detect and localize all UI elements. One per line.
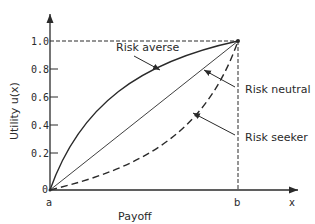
y-tick-label-0.2: 0.2 [31, 148, 49, 159]
x-axis-label: Payoff [118, 210, 152, 223]
y-tick-label-0.4: 0.4 [31, 120, 49, 131]
risk-averse-arrow [134, 56, 160, 70]
risk-seeker-arrow [193, 113, 235, 135]
y-axis-label: Utility u(x) [8, 82, 21, 140]
x-point-a: a [46, 197, 52, 208]
y-tick-label-1.0: 1.0 [31, 36, 49, 47]
risk-neutral-arrow [204, 70, 235, 87]
y-tick-label-0.6: 0.6 [31, 92, 49, 103]
y-tick-label-0: 0 [42, 184, 48, 195]
endpoint-marker [236, 39, 240, 43]
utility-diagram: 1.0 0.8 0.6 0.4 0.2 0 Utility u(x) a b x… [0, 0, 315, 224]
y-ticks [50, 69, 58, 153]
x-variable-label: x [289, 197, 295, 208]
risk-neutral-line [50, 41, 238, 190]
x-point-b: b [234, 197, 240, 208]
origin-marker [49, 189, 52, 192]
y-tick-label-0.8: 0.8 [31, 64, 49, 75]
risk-neutral-label: Risk neutral [245, 83, 311, 96]
risk-seeker-label: Risk seeker [245, 131, 308, 144]
risk-averse-label: Risk averse [116, 41, 180, 54]
